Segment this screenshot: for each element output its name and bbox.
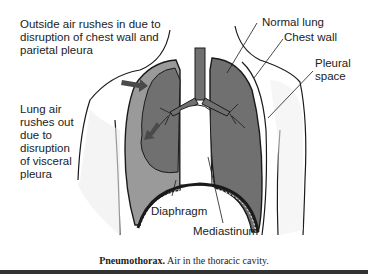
label-outside-air: Outside air rushes in due to disruption … — [20, 18, 161, 57]
caption-title: Pneumothorax. — [99, 255, 165, 266]
label-line: of visceral — [20, 155, 74, 168]
label-line: space — [315, 70, 351, 83]
label-line: parietal pleura — [20, 44, 161, 57]
label-lung-air: Lung air rushes out due to disruption of… — [20, 103, 74, 181]
normal-lung — [210, 58, 262, 232]
label-mediastinum: Mediastinum — [193, 225, 258, 238]
label-line: disruption — [20, 142, 74, 155]
label-normal-lung: Normal lung — [262, 16, 324, 29]
figure-caption: Pneumothorax. Air in the thoracic cavity… — [0, 255, 368, 266]
skin-shade — [78, 110, 120, 235]
mediastinum-area — [180, 105, 212, 185]
label-line: pleura — [20, 168, 74, 181]
label-diaphragm: Diaphragm — [151, 205, 207, 218]
label-line: Lung air — [20, 103, 74, 116]
label-pleural-space: Pleural space — [315, 57, 351, 83]
label-line: Outside air rushes in due to — [20, 18, 161, 31]
bottom-divider — [0, 270, 368, 274]
label-chest-wall: Chest wall — [284, 31, 337, 44]
label-line: due to — [20, 129, 74, 142]
label-line: Pleural — [315, 57, 351, 70]
label-line: rushes out — [20, 116, 74, 129]
caption-text: Air in the thoracic cavity. — [165, 255, 269, 266]
skin-shade-right — [270, 80, 303, 235]
label-line: disruption of chest wall and — [20, 31, 161, 44]
